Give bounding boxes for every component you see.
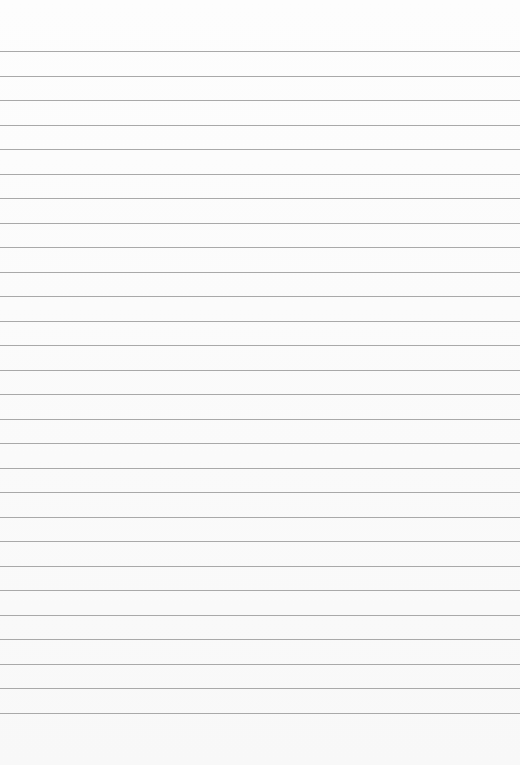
ruled-line [0,149,520,150]
lined-paper [0,0,520,765]
ruled-line [0,688,520,689]
ruled-line [0,517,520,518]
ruled-line [0,76,520,77]
ruled-line [0,615,520,616]
ruled-line [0,443,520,444]
ruled-line [0,419,520,420]
ruled-line [0,174,520,175]
ruled-line [0,100,520,101]
ruled-line [0,639,520,640]
ruled-line [0,296,520,297]
ruled-line [0,223,520,224]
ruled-line [0,468,520,469]
ruled-line [0,321,520,322]
ruled-line [0,370,520,371]
ruled-line [0,125,520,126]
ruled-line [0,713,520,714]
ruled-line [0,51,520,52]
ruled-line [0,541,520,542]
ruled-line [0,272,520,273]
ruled-line [0,247,520,248]
ruled-line [0,345,520,346]
ruled-line [0,198,520,199]
ruled-line [0,394,520,395]
ruled-line [0,590,520,591]
ruled-line [0,664,520,665]
ruled-line [0,566,520,567]
ruled-line [0,492,520,493]
